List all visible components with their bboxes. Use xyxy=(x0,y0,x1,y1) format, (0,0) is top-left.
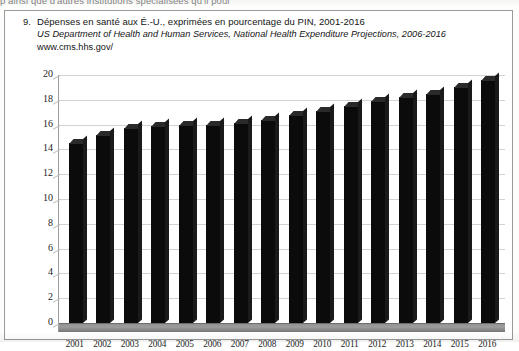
x-axis-label-2005: 2005 xyxy=(171,339,199,351)
clipped-paragraph-text: p ainsi que d'autres institutions spécia… xyxy=(0,0,231,6)
bar-2009 xyxy=(289,115,303,323)
bar-2002 xyxy=(96,135,110,323)
bar-side-face xyxy=(275,112,279,323)
bar-side-face xyxy=(138,121,142,323)
bar-2006 xyxy=(206,125,220,323)
bar-2004 xyxy=(151,126,165,323)
caption-title: Dépenses en santé aux É.-U., exprimées e… xyxy=(37,15,493,28)
x-axis-label-2004: 2004 xyxy=(144,339,172,351)
bar-series xyxy=(59,75,505,323)
x-axis-labels: 2001200220032004200520062007200820092010… xyxy=(58,339,504,351)
x-axis-label-2008: 2008 xyxy=(254,339,282,351)
x-axis-label-2015: 2015 xyxy=(446,339,474,351)
y-axis-tick-4: 4 xyxy=(31,266,53,277)
x-axis-label-2003: 2003 xyxy=(116,339,144,351)
bar-cell xyxy=(282,75,310,323)
bar-cell xyxy=(392,75,420,323)
caption-number: 9. xyxy=(23,15,37,28)
chart-floor xyxy=(59,323,505,332)
bar-cell xyxy=(145,75,173,323)
x-axis-label-2010: 2010 xyxy=(309,339,337,351)
y-axis-tick-16: 16 xyxy=(31,118,53,129)
bar-side-face xyxy=(495,72,499,323)
bar-side-face xyxy=(83,136,87,323)
clipped-paragraph-line: p ainsi que d'autres institutions spécia… xyxy=(0,0,519,8)
x-axis-label-2016: 2016 xyxy=(474,339,502,351)
bar-side-face xyxy=(413,90,417,323)
x-axis-label-2002: 2002 xyxy=(89,339,117,351)
y-axis-tick-12: 12 xyxy=(31,167,53,178)
bar-side-face xyxy=(193,117,197,323)
plot-area: 20181614121086420 xyxy=(58,75,505,332)
bar-cell xyxy=(475,75,503,323)
bar-2007 xyxy=(234,123,248,323)
bar-2016 xyxy=(481,80,495,323)
bar-2005 xyxy=(179,125,193,323)
bar-2014 xyxy=(426,94,440,323)
x-axis-label-2011: 2011 xyxy=(336,339,364,351)
bar-side-face xyxy=(385,93,389,323)
figure-box: 9. Dépenses en santé aux É.-U., exprimée… xyxy=(4,10,513,340)
y-axis-tick-8: 8 xyxy=(31,217,53,228)
bar-2003 xyxy=(124,128,138,323)
bar-2010 xyxy=(316,111,330,323)
bar-side-face xyxy=(110,127,114,323)
bar-cell xyxy=(90,75,118,323)
bar-cell xyxy=(227,75,255,323)
figure-caption: 9. Dépenses en santé aux É.-U., exprimée… xyxy=(23,15,493,53)
x-axis-label-2013: 2013 xyxy=(391,339,419,351)
bar-cell xyxy=(62,75,90,323)
y-axis-tick-14: 14 xyxy=(31,142,53,153)
bar-cell xyxy=(255,75,283,323)
x-axis-label-2006: 2006 xyxy=(199,339,227,351)
bar-2001 xyxy=(69,143,83,323)
bar-side-face xyxy=(303,107,307,323)
y-axis-tick-10: 10 xyxy=(31,192,53,203)
bar-cell xyxy=(310,75,338,323)
x-axis-label-2012: 2012 xyxy=(364,339,392,351)
bar-2008 xyxy=(261,120,275,323)
bar-side-face xyxy=(248,116,252,323)
y-axis-tick-6: 6 xyxy=(31,242,53,253)
x-axis-label-2014: 2014 xyxy=(419,339,447,351)
bar-side-face xyxy=(220,117,224,323)
y-axis-tick-2: 2 xyxy=(31,291,53,302)
bar-cell xyxy=(420,75,448,323)
health-expenditure-bar-chart: 20181614121086420 2001200220032004200520… xyxy=(16,67,508,345)
x-axis-label-2001: 2001 xyxy=(61,339,89,351)
bar-cell xyxy=(200,75,228,323)
x-axis-label-2009: 2009 xyxy=(281,339,309,351)
caption-source: US Department of Health and Human Servic… xyxy=(37,28,493,41)
bar-2011 xyxy=(344,106,358,323)
bar-cell xyxy=(172,75,200,323)
x-axis-label-2007: 2007 xyxy=(226,339,254,351)
bar-2013 xyxy=(399,97,413,323)
y-axis-tick-18: 18 xyxy=(31,93,53,104)
bar-side-face xyxy=(440,86,444,323)
bar-2015 xyxy=(454,87,468,323)
bar-side-face xyxy=(330,103,334,323)
bar-side-face xyxy=(468,80,472,323)
bar-2012 xyxy=(371,101,385,323)
bar-cell xyxy=(365,75,393,323)
caption-url: www.cms.hhs.gov/ xyxy=(37,41,493,54)
y-axis-tick-0: 0 xyxy=(31,316,53,327)
bar-cell xyxy=(337,75,365,323)
y-axis-tick-20: 20 xyxy=(31,68,53,79)
bar-side-face xyxy=(165,118,169,323)
bar-cell xyxy=(117,75,145,323)
bar-cell xyxy=(447,75,475,323)
bar-side-face xyxy=(358,98,362,323)
